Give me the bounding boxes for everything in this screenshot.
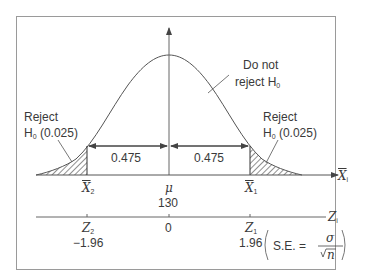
mu-value: 130 (158, 196, 178, 210)
se-formula-numerator: σ (326, 231, 334, 245)
right-reject-label-line2: H0 (0.025) (263, 126, 317, 144)
accept-label-line2: reject H0 (235, 75, 280, 93)
accept-label-line1: Do not (243, 58, 278, 72)
right-tail-shade (250, 146, 302, 175)
z0-value: 0 (165, 221, 172, 235)
left-reject-label-line2: H0 (0.025) (24, 126, 78, 144)
mu-label: μ (165, 181, 173, 195)
left-reject-label-line1: Reject (24, 110, 58, 124)
z-axis-label: Zi (328, 210, 338, 228)
x-bar-2-label: X2 (82, 181, 94, 199)
x-bar-1-label: X1 (245, 181, 257, 199)
x-axis-label: Xi (338, 169, 348, 187)
accept-pointer (208, 75, 229, 93)
right-area-value: 0.475 (194, 151, 224, 165)
left-tail-shade (36, 146, 87, 175)
right-reject-label-line1: Reject (263, 110, 297, 124)
normal-distribution-diagram: Do not reject H0 Reject H0 (0.025) Rejec… (0, 0, 370, 278)
z1-value: 1.96 (239, 236, 262, 250)
se-formula-denominator: n (327, 248, 335, 262)
z2-value: −1.96 (73, 236, 103, 250)
se-formula-lhs: S.E. = (273, 239, 306, 253)
left-area-value: 0.475 (111, 151, 141, 165)
